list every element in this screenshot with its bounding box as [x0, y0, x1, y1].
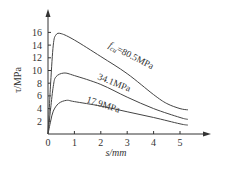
y-tick-label: 12: [32, 52, 42, 63]
annotation-value: =80.5MPa: [115, 44, 156, 71]
y-tick-label: 14: [32, 40, 42, 51]
bond-slip-chart: 246810121416 012345 s/mm τ/MPa fcu=80.5M…: [0, 0, 229, 169]
y-tick-label: 4: [37, 103, 42, 114]
x-tick-label: 4: [151, 137, 156, 148]
x-axis-label: s/mm: [105, 147, 126, 158]
y-axis-arrow-icon: [46, 9, 51, 17]
x-axis-arrow-icon: [203, 132, 211, 137]
x-tick-label: 1: [72, 137, 77, 148]
axes: [48, 14, 205, 134]
y-tick-label: 6: [37, 90, 42, 101]
annotation-17-9: 17.9MPa: [85, 94, 122, 114]
annotation-80-5: fcu=80.5MPa: [106, 40, 156, 73]
y-axis-label: τ/MPa: [12, 67, 23, 93]
x-tick-label: 0: [46, 137, 51, 148]
chart-svg: 246810121416 012345 s/mm τ/MPa fcu=80.5M…: [0, 0, 229, 169]
y-tick-label: 8: [37, 78, 42, 89]
svg-text:fcu=80.5MPa: fcu=80.5MPa: [106, 40, 156, 73]
y-tick-label: 16: [32, 27, 42, 38]
y-tick-label: 10: [32, 65, 42, 76]
y-tick-label: 2: [37, 116, 42, 127]
x-tick-label: 2: [98, 137, 103, 148]
x-tick-label: 5: [178, 137, 183, 148]
